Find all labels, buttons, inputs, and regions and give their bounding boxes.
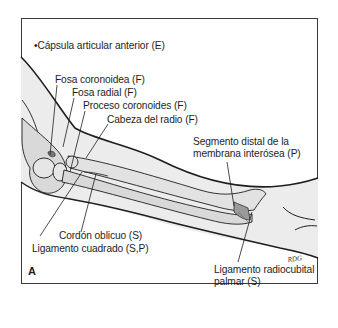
label-radial-head: Cabeza del radio (F) bbox=[107, 114, 198, 126]
label-interosseous-2: membrana interósea (P) bbox=[193, 148, 301, 160]
label-palmar-1: Ligamento radiocubital bbox=[214, 264, 314, 276]
label-capsule: •Cápsula articular anterior (E) bbox=[34, 40, 165, 52]
label-oblique-cord: Cordón oblicuo (S) bbox=[59, 230, 142, 242]
label-coronoid-fossa: Fosa coronoidea (F) bbox=[55, 74, 145, 86]
label-palmar-2: palmar (S) bbox=[214, 276, 261, 288]
artist-signature: RDG bbox=[286, 254, 302, 264]
panel-label: A bbox=[28, 265, 36, 277]
label-coronoid-process: Proceso coronoides (F) bbox=[83, 100, 187, 112]
label-interosseous-1: Segmento distal de la bbox=[193, 136, 289, 148]
label-quadrate-ligament: Ligamento cuadrado (S,P) bbox=[32, 243, 149, 255]
label-radial-fossa: Fosa radial (F) bbox=[72, 87, 137, 99]
